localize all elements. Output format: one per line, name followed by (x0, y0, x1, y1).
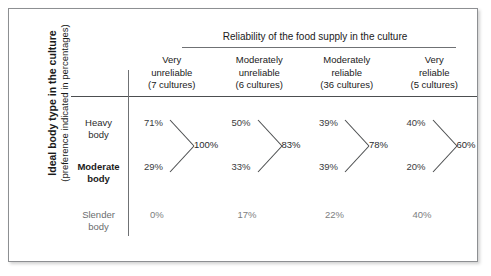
value-heavy-body: 39% (319, 117, 338, 128)
data-column-moderately-reliable: 39% 39% 22% 78% (303, 104, 391, 236)
column-group-rule (182, 47, 456, 48)
data-column-moderately-unreliable: 50% 33% 17% 83% (216, 104, 304, 236)
y-axis-label-line2: (preference indicated in percentages) (59, 24, 70, 181)
value-moderate-body: 29% (144, 161, 163, 172)
data-column-very-reliable: 40% 20% 40% 60% (391, 104, 479, 236)
data-column-very-unreliable: 71% 29% 0% 100% (128, 104, 216, 236)
value-moderate-body: 20% (407, 161, 426, 172)
y-axis-label-line1: Ideal body type in the culture (46, 30, 58, 175)
row-label-heavy-body: Heavy body (71, 117, 126, 141)
value-combined: 78% (369, 139, 388, 150)
value-slender-body: 0% (150, 209, 164, 220)
data-area: 71% 29% 0% 100% 50% 33% 17% 83% (128, 104, 478, 236)
column-header-very-reliable: Very reliable (5 cultures) (391, 54, 479, 92)
column-header-moderately-unreliable: Moderately unreliable (6 cultures) (216, 54, 304, 92)
value-heavy-body: 40% (407, 117, 426, 128)
column-header-line2: reliable (391, 67, 479, 80)
column-header-line1: Very (128, 54, 216, 67)
column-header-line2: unreliable (216, 67, 304, 80)
value-slender-body: 40% (413, 209, 432, 220)
column-header-line1: Very (391, 54, 479, 67)
column-header-line2: unreliable (128, 67, 216, 80)
row-label-line2: body (71, 129, 126, 141)
row-label-line2: body (71, 221, 126, 233)
column-header-line1: Moderately (216, 54, 304, 67)
value-moderate-body: 33% (232, 161, 251, 172)
header-divider-rule (71, 96, 477, 97)
row-label-moderate-body: Moderate body (71, 161, 126, 185)
value-heavy-body: 71% (144, 117, 163, 128)
combining-bracket-icon (345, 120, 371, 172)
value-heavy-body: 50% (232, 117, 251, 128)
column-header-line1: Moderately (303, 54, 391, 67)
column-header-moderately-reliable: Moderately reliable (36 cultures) (303, 54, 391, 92)
column-header-line3: (36 cultures) (303, 79, 391, 92)
row-label-line1: Slender (71, 209, 126, 221)
figure-container: Ideal body type in the culture (preferen… (0, 0, 491, 276)
column-header-line3: (6 cultures) (216, 79, 304, 92)
figure-frame: Ideal body type in the culture (preferen… (8, 8, 478, 262)
column-group-title: Reliability of the food supply in the cu… (174, 31, 456, 42)
value-slender-body: 17% (238, 209, 257, 220)
value-combined: 83% (282, 139, 301, 150)
row-label-line1: Heavy (71, 117, 126, 129)
combining-bracket-icon (433, 120, 459, 172)
column-header-line2: reliable (303, 67, 391, 80)
value-moderate-body: 39% (319, 161, 338, 172)
column-header-line3: (7 cultures) (128, 79, 216, 92)
value-slender-body: 22% (325, 209, 344, 220)
column-header-line3: (5 cultures) (391, 79, 479, 92)
value-combined: 60% (457, 139, 476, 150)
row-label-slender-body: Slender body (71, 209, 126, 233)
row-label-line1: Moderate (71, 161, 126, 173)
row-label-line2: body (71, 173, 126, 185)
combining-bracket-icon (170, 120, 196, 172)
column-header-row: Very unreliable (7 cultures) Moderately … (128, 54, 478, 92)
combining-bracket-icon (258, 120, 284, 172)
column-header-very-unreliable: Very unreliable (7 cultures) (128, 54, 216, 92)
